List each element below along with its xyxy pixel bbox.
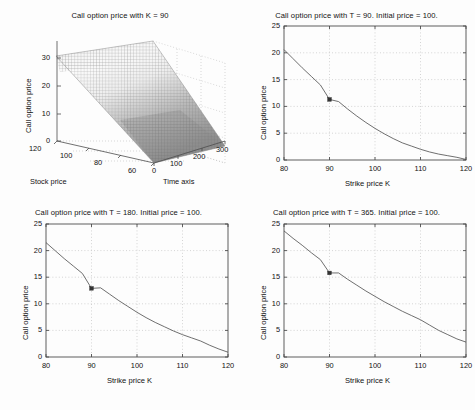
panel-t365: Call option price with T = 365. Initial … [238, 200, 475, 410]
surface-ztick-10: 10 [30, 109, 50, 118]
surface-canvas [0, 0, 240, 200]
t90-xtick-100: 100 [363, 164, 387, 173]
t365-ytick-10: 10 [260, 299, 280, 308]
t90-xtick-110: 110 [409, 164, 433, 173]
surface-ylabel: Time axis [163, 177, 194, 186]
surface-xtick-80: 80 [94, 158, 102, 167]
t90-ytick-5: 5 [260, 128, 280, 137]
t180-ytick-5: 5 [22, 325, 42, 334]
panel-surface-k90: Call option price with K = 90 Call optio… [0, 0, 240, 200]
surface-xtick-100: 100 [60, 151, 72, 160]
t90-ytick-0: 0 [260, 155, 280, 164]
surface-ytick-200: 200 [193, 152, 205, 161]
t90-xtick-80: 80 [272, 164, 296, 173]
t180-xtick-90: 90 [80, 361, 104, 370]
surface-xtick-120: 120 [29, 144, 41, 153]
surface-ytick-100: 100 [170, 159, 182, 168]
t180-ytick-20: 20 [22, 246, 42, 255]
matlab-figure: Call option price with K = 90 Call optio… [0, 0, 475, 410]
t90-ytick-20: 20 [260, 48, 280, 57]
panel-t90: Call option price with T = 90. Initial p… [238, 0, 475, 200]
surface-ytick-300: 300 [216, 145, 228, 154]
t365-ytick-15: 15 [260, 272, 280, 281]
t180-ytick-25: 25 [22, 219, 42, 228]
t365-ytick-0: 0 [260, 352, 280, 361]
surface-ztick-20: 20 [30, 81, 50, 90]
t180-ytick-10: 10 [22, 299, 42, 308]
surface-ztick-30: 30 [30, 53, 50, 62]
surface-xtick-60: 60 [128, 166, 136, 175]
t365-ytick-20: 20 [260, 246, 280, 255]
surface-xlabel: Stock price [30, 177, 67, 186]
t90-ytick-25: 25 [260, 21, 280, 30]
t90-xtick-120: 120 [454, 164, 475, 173]
t180-ytick-0: 0 [22, 352, 42, 361]
t180-xtick-100: 100 [125, 361, 149, 370]
t180-ytick-15: 15 [22, 272, 42, 281]
surface-ytick-0: 0 [152, 166, 156, 175]
t365-xtick-100: 100 [363, 361, 387, 370]
panel-t180: Call option price with T = 180. Initial … [0, 200, 237, 410]
t180-xtick-80: 80 [34, 361, 58, 370]
t90-ytick-15: 15 [260, 75, 280, 84]
t180-xtick-120: 120 [216, 361, 240, 370]
t90-xtick-90: 90 [318, 164, 342, 173]
t90-ytick-10: 10 [260, 101, 280, 110]
t365-xtick-110: 110 [409, 361, 433, 370]
t365-ytick-5: 5 [260, 325, 280, 334]
t180-xtick-110: 110 [171, 361, 195, 370]
t365-xtick-90: 90 [318, 361, 342, 370]
t365-xtick-80: 80 [272, 361, 296, 370]
t365-xtick-120: 120 [454, 361, 475, 370]
t365-ytick-25: 25 [260, 219, 280, 228]
